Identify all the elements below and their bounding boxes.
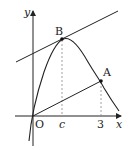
label-A: A bbox=[102, 66, 112, 79]
chord-OA bbox=[33, 81, 101, 116]
label-B: B bbox=[55, 25, 63, 38]
label-origin: O bbox=[35, 118, 44, 131]
tick-label-3: 3 bbox=[97, 118, 104, 131]
x-axis-label: x bbox=[116, 118, 123, 131]
tick-label-c: c bbox=[59, 118, 65, 131]
y-axis-label: y bbox=[23, 6, 31, 19]
tangent-line bbox=[16, 11, 118, 62]
point-A bbox=[99, 79, 103, 83]
diagram: B A O c 3 x y bbox=[0, 0, 129, 150]
